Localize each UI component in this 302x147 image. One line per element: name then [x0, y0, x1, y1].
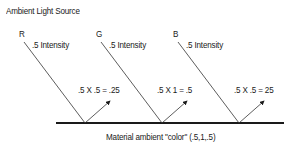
reflected-arrow-r	[85, 101, 110, 123]
incident-ray-g	[101, 42, 162, 123]
incident-ray-b	[178, 42, 239, 123]
reflected-arrow-g	[162, 101, 187, 123]
incident-ray-r	[24, 42, 85, 123]
reflected-arrow-b	[239, 101, 264, 123]
light-reflection-diagram	[0, 0, 302, 147]
